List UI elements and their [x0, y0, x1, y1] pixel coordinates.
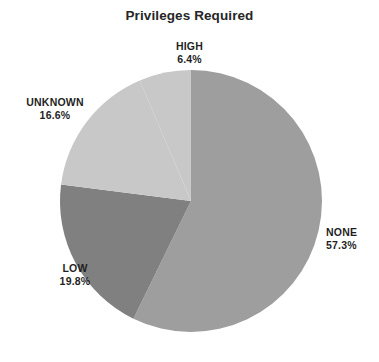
slice-label-none-percent: 57.3% [326, 239, 379, 252]
slice-label-none-name: NONE [326, 226, 379, 239]
slice-label-high: HIGH 6.4% [0, 40, 379, 66]
slice-label-high-name: HIGH [0, 40, 379, 53]
slice-label-low-name: LOW [25, 262, 125, 275]
slice-label-unknown: UNKNOWN 16.6% [0, 96, 110, 122]
pie-chart-figure: Privileges Required HIGH 6.4% UNKNOWN 16… [0, 0, 379, 362]
slice-label-low: LOW 19.8% [25, 262, 125, 288]
slice-label-low-percent: 19.8% [25, 275, 125, 288]
slice-label-none: NONE 57.3% [326, 226, 379, 252]
slice-label-unknown-percent: 16.6% [0, 109, 110, 122]
slice-label-unknown-name: UNKNOWN [0, 96, 110, 109]
slice-label-high-percent: 6.4% [0, 53, 379, 66]
